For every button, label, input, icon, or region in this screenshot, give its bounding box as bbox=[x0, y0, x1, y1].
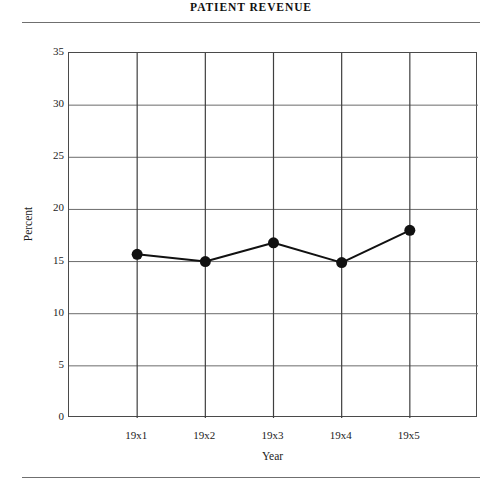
data-point-marker bbox=[132, 249, 143, 260]
x-tick-label: 19x1 bbox=[101, 429, 171, 441]
plot-area bbox=[68, 52, 477, 417]
x-tick-label: 19x3 bbox=[238, 429, 308, 441]
data-point-marker bbox=[268, 237, 279, 248]
y-tick-label: 25 bbox=[30, 150, 64, 161]
chart-title: PATIENT REVENUE bbox=[0, 1, 502, 13]
data-series bbox=[69, 53, 478, 418]
y-tick-label: 20 bbox=[30, 202, 64, 213]
chart-figure: PATIENT REVENUE 05101520253035 19x119x21… bbox=[0, 0, 502, 489]
y-tick-label: 0 bbox=[30, 411, 64, 422]
y-tick-label: 30 bbox=[30, 98, 64, 109]
x-axis-ticks: 19x119x219x319x419x5 bbox=[68, 429, 477, 445]
x-axis-title: Year bbox=[68, 450, 477, 462]
footer-divider bbox=[22, 477, 480, 478]
y-axis-title: Percent bbox=[22, 184, 34, 264]
x-tick-label: 19x2 bbox=[169, 429, 239, 441]
data-point-marker bbox=[336, 257, 347, 268]
data-point-marker bbox=[200, 256, 211, 267]
y-tick-label: 35 bbox=[30, 46, 64, 57]
header-divider bbox=[22, 22, 480, 23]
y-tick-label: 5 bbox=[30, 359, 64, 370]
data-point-marker bbox=[404, 225, 415, 236]
y-tick-label: 10 bbox=[30, 307, 64, 318]
x-tick-label: 19x4 bbox=[306, 429, 376, 441]
x-tick-label: 19x5 bbox=[374, 429, 444, 441]
y-tick-label: 15 bbox=[30, 255, 64, 266]
